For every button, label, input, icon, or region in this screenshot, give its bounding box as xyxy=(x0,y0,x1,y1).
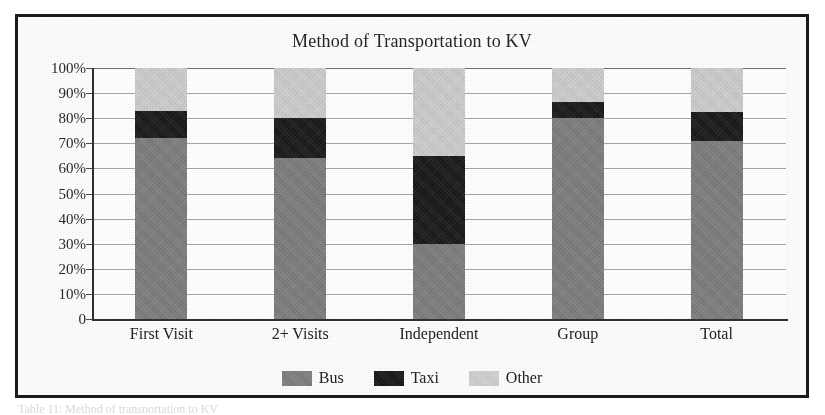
y-tick-label: 80% xyxy=(24,110,86,127)
bar-segment-bus[interactable] xyxy=(691,141,743,319)
bus-swatch xyxy=(282,371,312,386)
y-tick-label: 100% xyxy=(24,60,86,77)
bar-column[interactable] xyxy=(552,68,604,319)
x-axis-label: Group xyxy=(503,325,653,343)
y-tick-label: 30% xyxy=(24,235,86,252)
bar-segment-taxi[interactable] xyxy=(413,156,465,244)
other-swatch xyxy=(469,371,499,386)
bar-column[interactable] xyxy=(691,68,743,319)
bar-column[interactable] xyxy=(274,68,326,319)
legend-item-other[interactable]: Other xyxy=(469,369,542,387)
plot-area xyxy=(92,68,786,319)
y-tick-label: 40% xyxy=(24,210,86,227)
bar-column[interactable] xyxy=(135,68,187,319)
figure-frame: Method of Transportation to KV 010%20%30… xyxy=(15,14,809,398)
bar-segment-taxi[interactable] xyxy=(135,111,187,139)
y-tick-label: 70% xyxy=(24,135,86,152)
bar-segment-other[interactable] xyxy=(691,68,743,112)
y-tick-label: 20% xyxy=(24,260,86,277)
y-tick-label: 60% xyxy=(24,160,86,177)
y-tick-label: 10% xyxy=(24,285,86,302)
x-axis-category-labels: First Visit2+ VisitsIndependentGroupTota… xyxy=(92,325,786,353)
bar-segment-bus[interactable] xyxy=(274,158,326,319)
legend-item-taxi[interactable]: Taxi xyxy=(374,369,439,387)
bar-segment-bus[interactable] xyxy=(552,118,604,319)
x-axis-label: Total xyxy=(642,325,792,343)
legend-label: Taxi xyxy=(411,369,439,387)
bar-segment-other[interactable] xyxy=(135,68,187,111)
caption-remnant: Table 11: Method of transportation to KV xyxy=(18,402,518,413)
legend-item-bus[interactable]: Bus xyxy=(282,369,344,387)
legend-label: Bus xyxy=(319,369,344,387)
y-axis-line xyxy=(92,68,94,320)
x-axis-line xyxy=(92,319,788,321)
x-axis-label: First Visit xyxy=(86,325,236,343)
bar-segment-bus[interactable] xyxy=(413,244,465,319)
x-axis-label: 2+ Visits xyxy=(225,325,375,343)
bar-segment-taxi[interactable] xyxy=(552,102,604,118)
y-tick-label: 50% xyxy=(24,185,86,202)
chart-title: Method of Transportation to KV xyxy=(18,31,806,52)
bar-segment-taxi[interactable] xyxy=(691,112,743,141)
x-axis-label: Independent xyxy=(364,325,514,343)
y-tick-label: 0 xyxy=(24,311,86,328)
legend-label: Other xyxy=(506,369,542,387)
chart-legend: BusTaxiOther xyxy=(18,369,806,387)
bar-segment-taxi[interactable] xyxy=(274,118,326,158)
taxi-swatch xyxy=(374,371,404,386)
bar-segment-bus[interactable] xyxy=(135,138,187,319)
bar-segment-other[interactable] xyxy=(552,68,604,102)
y-tick-label: 90% xyxy=(24,85,86,102)
bar-segment-other[interactable] xyxy=(413,68,465,156)
bar-column[interactable] xyxy=(413,68,465,319)
bar-segment-other[interactable] xyxy=(274,68,326,118)
y-axis-tick-labels: 010%20%30%40%50%60%70%80%90%100% xyxy=(18,68,86,319)
